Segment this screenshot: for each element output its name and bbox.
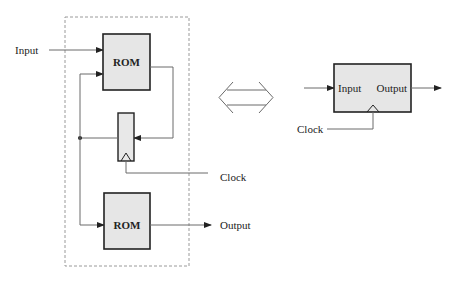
output-label: Output <box>220 219 251 231</box>
input-label: Input <box>15 44 38 56</box>
register <box>118 113 134 161</box>
block-output-label: Output <box>376 82 407 94</box>
clock-label: Clock <box>220 171 247 183</box>
register-to-rom-bottom-wire <box>80 138 104 225</box>
rom-top-label: ROM <box>113 56 141 68</box>
rom-top: ROM <box>103 34 150 90</box>
double-arrow-icon <box>219 82 273 113</box>
rom-bottom: ROM <box>104 193 150 249</box>
feedback-wire <box>80 74 103 138</box>
block-input-label: Input <box>338 82 361 94</box>
rom-bottom-label: ROM <box>114 219 142 231</box>
diagram-canvas: Input ROM Clock ROM Output Input Output <box>0 0 456 281</box>
clock-wire <box>126 161 208 173</box>
block-clock-wire <box>327 112 373 129</box>
sequential-block: Input Output <box>334 64 411 112</box>
block-clock-label: Clock <box>297 123 324 135</box>
